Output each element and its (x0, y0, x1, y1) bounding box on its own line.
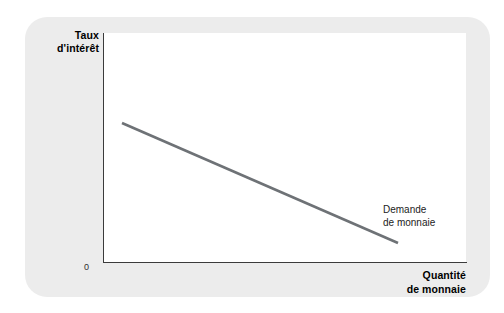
origin-tick-label: 0 (84, 262, 89, 272)
y-axis-title-line-1: Taux (0, 29, 99, 42)
demand-curve-label-line-2: de monnaie (383, 216, 435, 229)
x-axis-title-line-1: Quantité (346, 268, 466, 282)
x-axis-line (103, 262, 467, 263)
y-axis-title: Taux d'intérêt (0, 29, 99, 55)
demand-curve-label-line-1: Demande (383, 203, 435, 216)
x-axis-title-line-2: de monnaie (346, 282, 466, 296)
money-demand-figure: Taux d'intérêt Quantité de monnaie 0 Dem… (0, 0, 504, 313)
y-axis-line (103, 33, 104, 263)
x-axis-title: Quantité de monnaie (346, 268, 466, 296)
y-axis-title-line-2: d'intérêt (0, 42, 99, 55)
demand-curve-label: Demande de monnaie (383, 203, 435, 229)
